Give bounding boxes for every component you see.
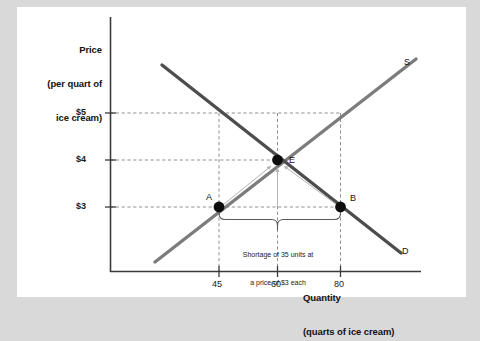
point-label-e: E	[289, 155, 295, 166]
supply-curve-label: S	[404, 57, 410, 68]
shortage-annotation-line2: a price of $3 each	[213, 278, 343, 287]
shortage-annotation-line1: Shortage of 35 units at	[213, 250, 343, 259]
x-axis-title-line2: (quarts of ice cream)	[303, 326, 463, 337]
y-axis-title: Price (per quart of ice cream)	[24, 22, 102, 145]
shortage-annotation: Shortage of 35 units at a price of $3 ea…	[213, 231, 343, 307]
point-label-a: A	[206, 192, 212, 203]
y-tick-label-4: $4	[76, 154, 86, 165]
y-tick-label-3: $3	[76, 201, 86, 212]
shortage-brace	[219, 214, 341, 226]
shortage-arrow-a-to-e	[223, 166, 271, 205]
y-axis-title-line1: Price	[24, 44, 102, 55]
point-a[interactable]	[214, 202, 225, 213]
point-label-b: B	[350, 193, 356, 204]
y-tick-label-5: $5	[76, 107, 86, 118]
point-b[interactable]	[335, 202, 346, 213]
point-e[interactable]	[272, 155, 283, 166]
demand-curve-label: D	[402, 246, 409, 257]
y-axis-title-line3: ice cream)	[24, 112, 102, 123]
shortage-arrow-b-to-e	[284, 166, 337, 205]
y-axis-title-line2: (per quart of	[24, 78, 102, 89]
